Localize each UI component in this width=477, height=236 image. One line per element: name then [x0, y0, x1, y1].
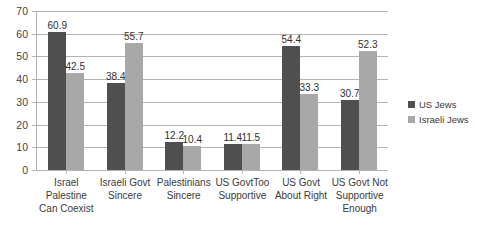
x-axis-category-label: Israeli GovtSincere [96, 176, 155, 215]
bar-pair: 54.433.3 [271, 11, 330, 170]
bar-pair: 60.942.5 [37, 11, 96, 170]
x-axis-category-label: US Govt NotSupportiveEnough [330, 176, 389, 215]
legend-item[interactable]: Israeli Jews [408, 112, 469, 127]
bar-pair: 11.411.5 [213, 11, 272, 170]
bar-israeli-jews[interactable]: 33.3 [300, 94, 318, 170]
bar-pair: 38.455.7 [96, 11, 155, 170]
x-axis-category-label: US GovtAbout Right [272, 176, 331, 215]
bar-value-label: 10.4 [183, 134, 202, 145]
category-label-line: Palestine [38, 189, 95, 202]
bar-groups: 60.942.538.455.712.210.411.411.554.433.3… [37, 11, 388, 170]
y-axis-tick-mark [32, 56, 36, 57]
x-axis-tick-mark [125, 170, 126, 174]
legend-item[interactable]: US Jews [408, 97, 469, 112]
bar-value-label: 12.2 [165, 130, 184, 141]
bar-group: 38.455.7 [96, 11, 155, 170]
category-label-line: US GovtToo [214, 176, 271, 189]
gridline [36, 170, 388, 171]
bar-value-label: 38.4 [106, 71, 125, 82]
y-axis-tick-label: 0 [0, 165, 28, 175]
bar-israeli-jews[interactable]: 10.4 [183, 146, 201, 170]
category-label-line: Israel [38, 176, 95, 189]
category-label-line: Enough [331, 202, 388, 215]
y-axis-tick-mark [32, 170, 36, 171]
chart-legend: US JewsIsraeli Jews [408, 97, 469, 127]
x-axis-tick-mark [66, 170, 67, 174]
x-axis-tick-mark [300, 170, 301, 174]
bar-us-jews[interactable]: 60.9 [48, 32, 66, 170]
y-axis-tick-mark [32, 125, 36, 126]
x-axis-category-labels: IsraelPalestineCan CoexistIsraeli GovtSi… [37, 176, 389, 215]
x-axis-tick-mark [242, 170, 243, 174]
legend-label: US Jews [419, 97, 456, 112]
category-label-line: US Govt Not [331, 176, 388, 189]
y-axis-tick-label: 60 [0, 29, 28, 39]
bar-value-label: 42.5 [66, 61, 85, 72]
bar-value-label: 11.5 [241, 132, 260, 143]
category-label-line: Supportive [214, 189, 271, 202]
y-axis-tick-mark [32, 102, 36, 103]
bar-israeli-jews[interactable]: 42.5 [66, 73, 84, 170]
x-axis-tick-mark [359, 170, 360, 174]
category-label-line: Can Coexist [38, 202, 95, 215]
bar-pair: 30.752.3 [330, 11, 389, 170]
y-axis-tick-label: 20 [0, 120, 28, 130]
category-label-line: Supportive [331, 189, 388, 202]
bar-value-label: 33.3 [300, 82, 319, 93]
bar-us-jews[interactable]: 30.7 [341, 100, 359, 170]
category-label-line: Israeli Govt [97, 176, 154, 189]
x-axis-category-label: US GovtTooSupportive [213, 176, 272, 215]
y-axis-tick-label: 40 [0, 74, 28, 84]
bar-us-jews[interactable]: 12.2 [165, 142, 183, 170]
x-axis-category-label: PalestiniansSincere [154, 176, 213, 215]
x-axis-tick-mark [183, 170, 184, 174]
category-label-line: US Govt [273, 176, 330, 189]
bar-us-jews[interactable]: 54.4 [282, 46, 300, 170]
y-axis-tick-mark [32, 11, 36, 12]
bar-group: 60.942.5 [37, 11, 96, 170]
y-axis-tick-mark [32, 79, 36, 80]
bar-chart: 60.942.538.455.712.210.411.411.554.433.3… [0, 0, 477, 236]
bar-group: 30.752.3 [330, 11, 389, 170]
bar-israeli-jews[interactable]: 55.7 [125, 43, 143, 170]
bar-value-label: 52.3 [358, 39, 377, 50]
y-axis-tick-label: 30 [0, 97, 28, 107]
category-label-line: Palestinians [155, 176, 212, 189]
y-axis-tick-mark [32, 147, 36, 148]
category-label-line: Sincere [97, 189, 154, 202]
bar-us-jews[interactable]: 38.4 [107, 83, 125, 170]
bar-group: 54.433.3 [271, 11, 330, 170]
category-label-line: Sincere [155, 189, 212, 202]
legend-swatch-icon [408, 101, 415, 108]
bar-israeli-jews[interactable]: 52.3 [359, 51, 377, 170]
y-axis-tick-label: 50 [0, 51, 28, 61]
y-axis-tick-label: 70 [0, 6, 28, 16]
y-axis-tick-mark [32, 34, 36, 35]
bar-us-jews[interactable]: 11.4 [224, 144, 242, 170]
legend-label: Israeli Jews [419, 112, 469, 127]
bar-group: 12.210.4 [154, 11, 213, 170]
x-axis-category-label: IsraelPalestineCan Coexist [37, 176, 96, 215]
legend-swatch-icon [408, 116, 415, 123]
bar-value-label: 60.9 [48, 20, 67, 31]
bar-value-label: 54.4 [282, 34, 301, 45]
category-label-line: About Right [273, 189, 330, 202]
bar-value-label: 11.4 [223, 132, 242, 143]
y-axis-tick-label: 10 [0, 142, 28, 152]
bar-group: 11.411.5 [213, 11, 272, 170]
plot-area: 60.942.538.455.712.210.411.411.554.433.3… [36, 11, 388, 170]
bar-value-label: 30.7 [340, 88, 359, 99]
bar-value-label: 55.7 [124, 31, 143, 42]
bar-israeli-jews[interactable]: 11.5 [242, 144, 260, 170]
bar-pair: 12.210.4 [154, 11, 213, 170]
